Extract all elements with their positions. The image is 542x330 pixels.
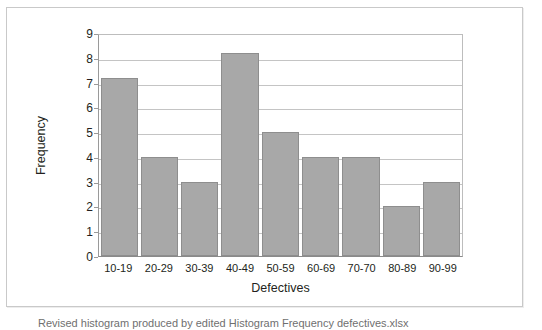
y-tick-label: 8 [86,53,93,65]
bar-slot [381,35,421,256]
x-tick-label: 10-19 [98,261,139,275]
y-tick-label: 3 [86,177,93,189]
x-tick-label: 70-70 [341,261,382,275]
y-tick-mark [94,183,98,184]
y-axis-tick-labels: 0123456789 [69,34,93,257]
bar-slot [341,35,381,256]
bar [423,182,460,256]
x-tick-label: 60-69 [301,261,342,275]
y-tick-label: 6 [86,102,93,114]
bar [342,157,379,256]
bar [141,157,178,256]
y-tick-mark [94,257,98,258]
bar [262,132,299,256]
x-tick-label: 40-49 [220,261,261,275]
x-tick-label: 20-29 [139,261,180,275]
bar [101,78,138,256]
bar-slot [220,35,260,256]
figure-caption: Revised histogram produced by edited His… [38,316,518,330]
x-axis-tick-labels: 10-1920-2930-3940-4950-5960-6970-7080-89… [98,261,463,275]
y-tick-label: 9 [86,28,93,40]
y-axis-title: Frequency [33,34,49,257]
bar [221,53,258,256]
bar [181,182,218,256]
y-tick-label: 2 [86,201,93,213]
y-tick-label: 4 [86,152,93,164]
x-tick-label: 50-59 [260,261,301,275]
y-tick-label: 1 [86,226,93,238]
y-tick-mark [94,59,98,60]
bar-slot [422,35,462,256]
bar-slot [260,35,300,256]
y-tick-mark [94,158,98,159]
figure-frame: Frequency 0123456789 10-1920-2930-3940-4… [6,7,523,307]
bar-slot [139,35,179,256]
y-tick-mark [94,108,98,109]
x-axis-title: Defectives [98,280,463,296]
x-tick-label: 80-89 [382,261,423,275]
bar-slot [99,35,139,256]
bar-series [99,35,462,256]
x-tick-label: 90-99 [423,261,464,275]
bar-slot [180,35,220,256]
y-tick-mark [94,232,98,233]
y-tick-mark [94,207,98,208]
x-tick-label: 30-39 [179,261,220,275]
bar [383,206,420,256]
y-tick-mark [94,34,98,35]
y-tick-label: 0 [86,251,93,263]
plot-area [98,34,463,257]
y-tick-mark [94,84,98,85]
y-tick-label: 5 [86,127,93,139]
bar-slot [301,35,341,256]
y-tick-mark [94,133,98,134]
bar [302,157,339,256]
y-tick-label: 7 [86,78,93,90]
